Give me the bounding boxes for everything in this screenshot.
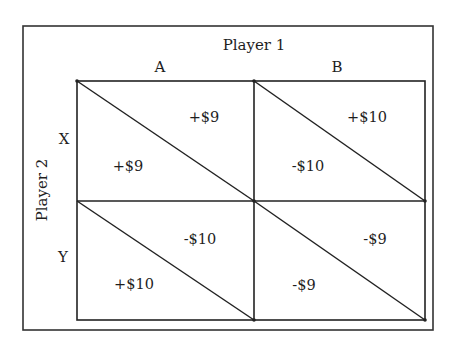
cell-XB-player1-payoff: +$10 <box>347 110 387 125</box>
payoff-matrix-diagram: Player 1 A B Player 2 X Y +$9 +$9 +$10 -… <box>0 0 458 349</box>
diagonal-cell-YA <box>77 201 254 320</box>
row-strategy-x: X <box>59 132 70 147</box>
outer-frame <box>23 26 433 330</box>
cell-YA-player1-payoff: -$10 <box>184 232 217 247</box>
row-player-label: Player 2 <box>35 159 50 222</box>
cell-XA-player1-payoff: +$9 <box>189 110 220 125</box>
column-player-label: Player 1 <box>223 38 286 53</box>
cell-YB-player2-payoff: -$9 <box>292 278 315 293</box>
column-strategy-b: B <box>331 60 342 75</box>
cell-YA-player2-payoff: +$10 <box>114 277 154 292</box>
column-strategy-a: A <box>155 60 166 75</box>
diagonal-cell-XB <box>254 81 425 201</box>
diagonal-cell-YB <box>254 201 425 320</box>
corner-dot <box>423 318 427 322</box>
corner-dot <box>252 79 256 83</box>
corner-dot <box>423 199 427 203</box>
diagonal-cell-XA <box>77 81 254 201</box>
corner-dot <box>252 199 256 203</box>
corner-dot <box>75 79 79 83</box>
cell-YB-player1-payoff: -$9 <box>363 232 386 247</box>
cell-XB-player2-payoff: -$10 <box>292 159 325 174</box>
row-strategy-y: Y <box>58 250 68 265</box>
cell-XA-player2-payoff: +$9 <box>113 159 144 174</box>
corner-dot <box>252 318 256 322</box>
